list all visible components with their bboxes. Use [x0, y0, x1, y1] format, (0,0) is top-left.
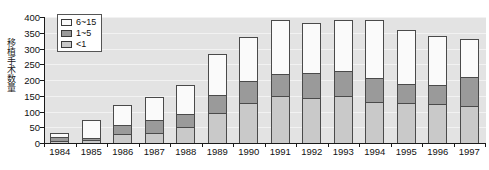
- bar-segment-1: [146, 133, 163, 143]
- chart-legend: 6~151~5<1: [57, 14, 102, 52]
- legend-item[interactable]: 6~15: [61, 17, 96, 27]
- bar-segment-1: [335, 96, 352, 144]
- x-tick-mark: [202, 143, 203, 147]
- bar-group: [296, 17, 328, 143]
- stacked-bar[interactable]: [334, 20, 353, 143]
- bar-segment-615: [209, 55, 226, 95]
- stacked-bar[interactable]: [208, 54, 227, 143]
- x-tick-mark: [233, 143, 234, 147]
- x-tick-label: 1992: [296, 146, 328, 166]
- x-tick-mark: [454, 143, 455, 147]
- bar-segment-615: [114, 106, 131, 125]
- stacked-bar[interactable]: [50, 133, 69, 143]
- bar-segment-1: [240, 103, 257, 143]
- x-tick-mark: [391, 143, 392, 147]
- x-tick-mark: [485, 143, 486, 147]
- bar-segment-1: [209, 113, 226, 143]
- bar-segment-15: [303, 73, 320, 98]
- x-tick-label: 1990: [233, 146, 265, 166]
- bar-segment-15: [398, 84, 415, 103]
- x-tick-mark: [76, 143, 77, 147]
- y-axis-title: 移植手术数量: [1, 38, 15, 92]
- y-tick-label: 250: [24, 59, 40, 70]
- bar-group: [422, 17, 454, 143]
- legend-label: 1~5: [76, 28, 91, 38]
- bar-group: [265, 17, 297, 143]
- bar-group: [454, 17, 486, 143]
- bar-segment-1: [366, 102, 383, 143]
- stacked-bar[interactable]: [428, 36, 447, 143]
- legend-label: <1: [76, 39, 86, 49]
- bar-segment-15: [209, 95, 226, 113]
- bar-group: [359, 17, 391, 143]
- stacked-bar[interactable]: [176, 85, 195, 143]
- bar-segment-1: [429, 104, 446, 143]
- x-tick-mark: [359, 143, 360, 147]
- legend-swatch: [61, 19, 72, 26]
- bar-segment-615: [335, 21, 352, 70]
- stacked-bar[interactable]: [397, 30, 416, 143]
- bar-group: [391, 17, 423, 143]
- y-tick-label: 300: [24, 43, 40, 54]
- stacked-bar[interactable]: [145, 97, 164, 143]
- y-tick-label: 150: [24, 90, 40, 101]
- x-tick-label: 1991: [265, 146, 297, 166]
- bar-segment-1: [303, 98, 320, 143]
- x-tick-label: 1995: [391, 146, 423, 166]
- y-tick-mark: [40, 127, 44, 128]
- stacked-bar[interactable]: [460, 39, 479, 143]
- bar-segment-1: [177, 127, 194, 143]
- x-tick-label: 1986: [107, 146, 139, 166]
- y-axis-tick-labels: 400350300250200150100500: [14, 0, 40, 170]
- bar-segment-1: [272, 96, 289, 143]
- stacked-bar[interactable]: [302, 23, 321, 143]
- x-tick-mark: [328, 143, 329, 147]
- x-axis-tick-labels: 1984198519861987198819891990199119921993…: [44, 146, 485, 166]
- bar-segment-1: [114, 134, 131, 143]
- stacked-bar[interactable]: [82, 120, 101, 143]
- bar-group: [202, 17, 234, 143]
- x-tick-mark: [139, 143, 140, 147]
- bar-segment-15: [461, 77, 478, 105]
- stacked-bar[interactable]: [271, 20, 290, 143]
- x-tick-label: 1996: [422, 146, 454, 166]
- y-tick-mark: [40, 33, 44, 34]
- stacked-bar[interactable]: [239, 37, 258, 143]
- bar-segment-15: [177, 114, 194, 127]
- x-tick-label: 1997: [454, 146, 486, 166]
- legend-item[interactable]: 1~5: [61, 28, 96, 38]
- x-tick-mark: [107, 143, 108, 147]
- bar-segment-615: [240, 38, 257, 81]
- bar-segment-615: [83, 121, 100, 138]
- bar-segment-15: [366, 78, 383, 102]
- bar-segment-15: [335, 71, 352, 96]
- legend-swatch: [61, 41, 72, 48]
- bar-series-container: [44, 17, 485, 143]
- bar-segment-15: [114, 125, 131, 135]
- x-tick-label: 1989: [202, 146, 234, 166]
- bar-segment-615: [303, 24, 320, 72]
- x-tick-mark: [296, 143, 297, 147]
- bar-group: [107, 17, 139, 143]
- y-tick-mark: [40, 112, 44, 113]
- bar-group: [233, 17, 265, 143]
- stacked-bar-chart: 移植手术数量 400350300250200150100500 19841985…: [0, 0, 489, 170]
- legend-item[interactable]: <1: [61, 39, 96, 49]
- bar-group: [139, 17, 171, 143]
- bar-segment-615: [272, 21, 289, 73]
- bar-segment-1: [398, 103, 415, 143]
- bar-group: [328, 17, 360, 143]
- bar-segment-1: [461, 106, 478, 143]
- y-tick-mark: [40, 96, 44, 97]
- stacked-bar[interactable]: [365, 20, 384, 143]
- y-tick-label: 100: [24, 106, 40, 117]
- legend-swatch: [61, 30, 72, 37]
- y-tick-label: 200: [24, 75, 40, 86]
- legend-label: 6~15: [76, 17, 96, 27]
- y-tick-mark: [40, 49, 44, 50]
- x-tick-label: 1985: [76, 146, 108, 166]
- x-tick-label: 1993: [328, 146, 360, 166]
- x-tick-mark: [422, 143, 423, 147]
- stacked-bar[interactable]: [113, 105, 132, 143]
- y-tick-mark: [40, 64, 44, 65]
